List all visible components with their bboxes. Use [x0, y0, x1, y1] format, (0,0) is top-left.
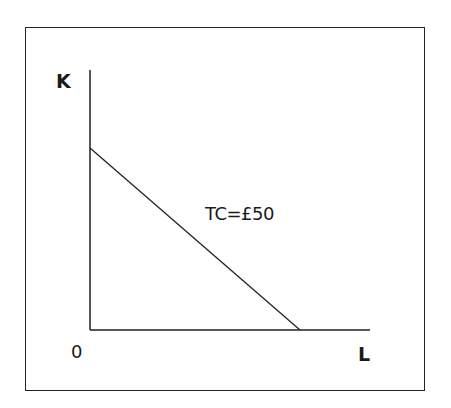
origin-label: 0	[71, 341, 82, 362]
x-axis-label: L	[358, 343, 370, 365]
isocost-label: TC=£50	[205, 203, 274, 224]
y-axis-label: K	[56, 70, 71, 92]
isocost-line	[90, 148, 300, 330]
